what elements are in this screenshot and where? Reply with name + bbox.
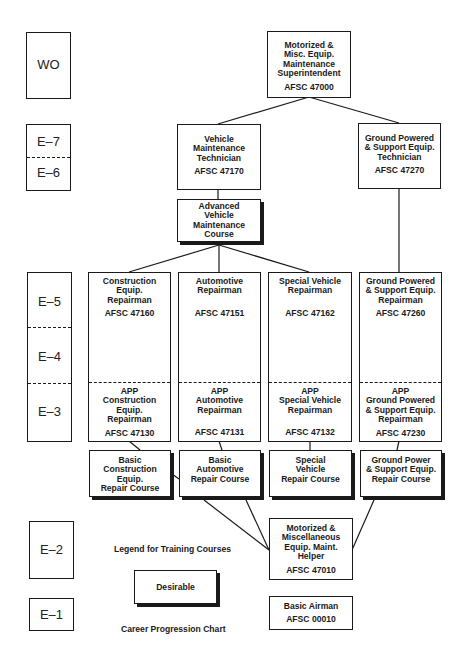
course-basic-automotive: Basic Automotive Repair Course xyxy=(179,450,261,497)
app-ground: APP Ground Powered & Support Equip. Repa… xyxy=(360,387,441,438)
position-afsc: AFSC 47010 xyxy=(270,566,352,575)
position-title: Vehicle Maintenance Technician xyxy=(178,135,260,163)
position-title: APP Construction Equip. Repairman xyxy=(89,387,170,425)
position-afsc: AFSC 00010 xyxy=(270,615,352,624)
level-divider xyxy=(179,382,260,383)
level-divider xyxy=(269,382,351,383)
position-helper: Motorized & Miscellaneous Equip. Maint. … xyxy=(269,518,353,580)
level-label: E–2 xyxy=(30,542,73,557)
course-title: Advanced Vehicle Maintenance Course xyxy=(178,202,260,240)
position-title: Motorized & Miscellaneous Equip. Maint. … xyxy=(270,524,352,562)
chart-caption: Career Progression Chart xyxy=(121,624,226,634)
position-vehicle-technician: Vehicle Maintenance Technician AFSC 4717… xyxy=(177,124,261,190)
position-title: Ground Powered & Support Equip. Repairma… xyxy=(360,277,441,305)
position-afsc: AFSC 47131 xyxy=(179,428,260,437)
position-afsc: AFSC 47151 xyxy=(179,309,260,318)
course-basic-construction: Basic Construction Equip. Repair Course xyxy=(89,450,171,497)
position-afsc: AFSC 47132 xyxy=(269,428,351,437)
position-title: Automotive Repairman xyxy=(179,277,260,296)
level-divider xyxy=(28,383,71,384)
position-title: Construction Equip. Repairman xyxy=(89,277,170,305)
legend-desirable: Desirable xyxy=(134,570,217,604)
course-special-vehicle: Special Vehicle Repair Course xyxy=(269,450,352,497)
position-title: Motorized & Misc. Equip. Maintenance Sup… xyxy=(268,41,350,79)
position-afsc: AFSC 47230 xyxy=(360,429,441,438)
level-divider xyxy=(28,327,71,328)
course-advanced-vehicle: Advanced Vehicle Maintenance Course xyxy=(177,199,261,242)
position-basic-airman: Basic Airman AFSC 00010 xyxy=(269,596,353,630)
app-automotive: APP Automotive Repairman AFSC 47131 xyxy=(179,387,260,438)
legend-desirable-label: Desirable xyxy=(156,582,195,592)
position-superintendent: Motorized & Misc. Equip. Maintenance Sup… xyxy=(267,31,351,98)
course-title: Special Vehicle Repair Course xyxy=(270,456,351,484)
position-column-ground: Ground Powered & Support Equip. Repairma… xyxy=(359,272,442,442)
position-column-special-vehicle: Special Vehicle Repairman AFSC 47162 APP… xyxy=(268,272,352,442)
position-title: Special Vehicle Repairman xyxy=(269,277,351,296)
position-afsc: AFSC 47130 xyxy=(89,429,170,438)
app-construction: APP Construction Equip. Repairman AFSC 4… xyxy=(89,387,170,438)
level-divider xyxy=(27,157,70,158)
level-box-e2: E–2 xyxy=(29,521,74,579)
position-ground-technician: Ground Powered & Support Equip. Technici… xyxy=(358,123,441,189)
level-divider xyxy=(89,382,170,383)
level-label: E–6 xyxy=(27,165,70,180)
level-label: E–3 xyxy=(28,404,71,419)
level-label: E–1 xyxy=(30,607,73,622)
position-column-construction: Construction Equip. Repairman AFSC 47160… xyxy=(88,272,171,442)
level-box-e1: E–1 xyxy=(29,598,74,631)
position-afsc: AFSC 47170 xyxy=(178,167,260,176)
legend-title: Legend for Training Courses xyxy=(114,544,231,554)
position-afsc: AFSC 47260 xyxy=(360,309,441,318)
position-title: APP Automotive Repairman xyxy=(179,387,260,415)
course-title: Basic Automotive Repair Course xyxy=(180,456,260,484)
level-divider xyxy=(360,382,441,383)
course-title: Basic Construction Equip. Repair Course xyxy=(90,456,170,494)
position-afsc: AFSC 47160 xyxy=(89,309,170,318)
course-ground-power: Ground Power & Support Equip. Repair Cou… xyxy=(360,450,442,497)
course-title: Ground Power & Support Equip. Repair Cou… xyxy=(361,456,441,484)
position-afsc: AFSC 47162 xyxy=(269,309,351,318)
position-column-automotive: Automotive Repairman AFSC 47151 APP Auto… xyxy=(178,272,261,442)
level-label: E–4 xyxy=(28,349,71,364)
level-label: E–7 xyxy=(27,134,70,149)
position-title: Ground Powered & Support Equip. Technici… xyxy=(359,134,440,162)
position-afsc: AFSC 47270 xyxy=(359,166,440,175)
position-title: Basic Airman xyxy=(270,602,352,611)
position-title: APP Ground Powered & Support Equip. Repa… xyxy=(360,387,441,425)
level-box-e5-e4-e3: E–5 E–4 E–3 xyxy=(27,272,72,442)
level-label: WO xyxy=(27,57,70,72)
level-label: E–5 xyxy=(28,294,71,309)
position-afsc: AFSC 47000 xyxy=(268,83,350,92)
level-box-e7-e6: E–7 E–6 xyxy=(26,124,71,191)
level-box-wo: WO xyxy=(26,32,71,99)
app-special-vehicle: APP Special Vehicle Repairman AFSC 47132 xyxy=(269,387,351,438)
position-title: APP Special Vehicle Repairman xyxy=(269,387,351,415)
